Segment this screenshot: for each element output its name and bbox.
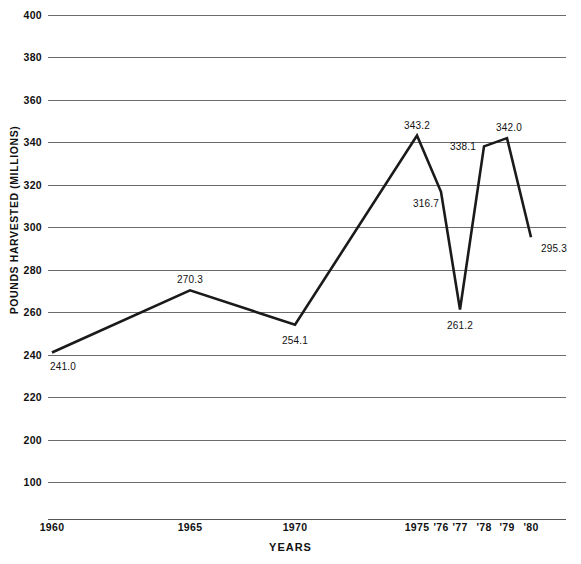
data-point-label: 254.1 (282, 335, 308, 346)
y-axis-tick-label: 400 (24, 9, 42, 21)
x-axis-ticks: 1960196519701975'76'77'78'79'80 (48, 521, 566, 541)
y-axis-title: POUNDS HARVESTED (MILLIONS) (0, 0, 28, 440)
x-axis-line (48, 519, 566, 520)
line-chart: POUNDS HARVESTED (MILLIONS) 400380360340… (0, 0, 581, 564)
x-axis-tick-label: 1960 (40, 521, 65, 533)
x-axis-tick-label: 1965 (178, 521, 203, 533)
data-point-label: 342.0 (496, 122, 522, 133)
data-point-label: 270.3 (177, 274, 203, 285)
y-axis-tick-label: 260 (24, 306, 42, 318)
y-axis-tick-label: 300 (24, 221, 42, 233)
data-point-label: 338.1 (450, 141, 476, 152)
x-axis-tick-label: 1975 (405, 521, 430, 533)
data-point-label: 241.0 (50, 361, 76, 372)
y-axis-tick-label: 340 (24, 136, 42, 148)
x-axis-tick-label: '79 (499, 521, 514, 533)
x-axis-title: YEARS (0, 541, 581, 553)
data-series (48, 15, 566, 482)
y-axis-tick-label: 220 (24, 391, 42, 403)
y-axis-tick-label: 200 (24, 434, 42, 446)
data-point-label: 343.2 (404, 120, 430, 131)
x-axis-tick-label: '76 (433, 521, 448, 533)
data-point-label: 261.2 (447, 320, 473, 331)
plot-area: 400380360340320300280260240220200100 241… (48, 15, 566, 482)
x-axis-tick-label: 1970 (283, 521, 308, 533)
y-axis-tick-label: 100 (24, 476, 42, 488)
gridline (48, 482, 566, 483)
x-axis-tick-label: '77 (452, 521, 467, 533)
y-axis-tick-label: 360 (24, 94, 42, 106)
y-axis-tick-label: 280 (24, 264, 42, 276)
x-axis-tick-label: '78 (476, 521, 491, 533)
y-axis-tick-label: 320 (24, 179, 42, 191)
data-point-label: 295.3 (541, 243, 567, 254)
y-axis-tick-label: 240 (24, 349, 42, 361)
data-point-label: 316.7 (413, 198, 439, 209)
y-axis-tick-label: 380 (24, 51, 42, 63)
x-axis-tick-label: '80 (523, 521, 538, 533)
y-axis-title-text: POUNDS HARVESTED (MILLIONS) (8, 126, 20, 315)
